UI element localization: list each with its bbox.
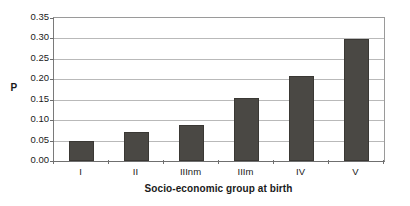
x-axis-tick-mark [108,160,109,164]
bar [124,132,149,161]
x-axis-tick-label: IIIm [218,166,273,178]
y-axis-tick-label: 0.05 [16,135,49,145]
y-axis-tick-label: 0.30 [16,32,49,42]
y-axis-tick-mark [50,120,54,121]
x-axis-tick-marks [53,160,385,165]
x-axis-tick-label: II [108,166,163,178]
x-axis-tick-label: V [328,166,383,178]
y-axis-tick-label: 0.25 [16,53,49,63]
y-axis-tick-mark [50,79,54,80]
x-axis-tick-label: I [53,166,108,178]
y-axis-tick-label: 0.00 [16,155,49,165]
y-axis-tick-mark [50,59,54,60]
x-axis-tick-mark [218,160,219,164]
bar-chart-figure: P 0.000.050.100.150.200.250.300.35 IIIII… [0,0,410,206]
bar [69,141,94,161]
x-axis-tick-mark [273,160,274,164]
x-axis-tick-label: IIInm [163,166,218,178]
x-axis-tick-mark [328,160,329,164]
x-axis-title: Socio-economic group at birth [53,183,384,195]
y-axis-tick-label: 0.15 [16,94,49,104]
bar [179,125,204,161]
y-axis-tick-mark [50,141,54,142]
y-axis-tick-label: 0.35 [16,12,49,22]
bar [289,76,314,161]
x-axis-tick-mark [163,160,164,164]
y-axis-tick-labels: 0.000.050.100.150.200.250.300.35 [16,10,49,165]
plot-area [53,17,385,162]
x-axis-tick-mark [383,160,384,164]
y-axis-tick-mark [50,100,54,101]
x-axis-tick-mark [53,160,54,164]
y-axis-tick-label: 0.20 [16,73,49,83]
x-axis-tick-label: IV [273,166,328,178]
bar [344,39,369,161]
y-axis-tick-label: 0.10 [16,114,49,124]
y-axis-tick-mark [50,38,54,39]
x-axis-tick-labels: IIIIIInmIIImIVV [53,166,384,180]
bars-layer [54,18,384,161]
bar [234,98,259,161]
y-axis-tick-mark [50,18,54,19]
